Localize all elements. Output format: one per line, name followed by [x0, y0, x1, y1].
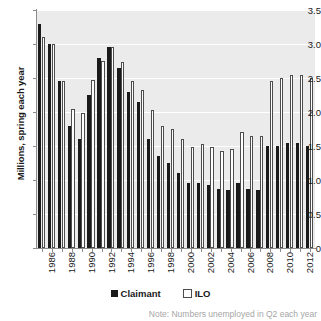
y-tick-mark: [33, 10, 36, 11]
bar-group: [266, 10, 273, 248]
x-tick-mark: [191, 248, 192, 252]
x-tick-label: 1996: [145, 252, 156, 273]
bar-claimant: [117, 68, 120, 248]
x-tick-mark: [221, 248, 222, 252]
bar-claimant: [217, 189, 220, 248]
legend-label-ilo: ILO: [195, 288, 211, 299]
x-axis-line: [36, 248, 316, 249]
bar-group: [167, 10, 174, 248]
bar-ilo: [161, 126, 164, 248]
bar-claimant: [177, 173, 180, 248]
bar-ilo: [280, 78, 283, 248]
x-tick-mark: [250, 248, 251, 252]
x-tick-mark: [141, 248, 142, 252]
bar-group: [197, 10, 204, 248]
bar-claimant: [246, 189, 249, 248]
bar-claimant: [207, 185, 210, 248]
bar-ilo: [101, 61, 104, 248]
x-tick-label: 1992: [106, 252, 117, 273]
bar-claimant: [97, 58, 100, 248]
y-tick-mark: [33, 248, 36, 249]
bar-ilo: [220, 151, 223, 248]
x-tick-mark: [102, 248, 103, 252]
bar-group: [38, 10, 45, 248]
x-tick-mark: [62, 248, 63, 252]
y-tick-label: 2.0: [287, 107, 321, 118]
bar-ilo: [250, 136, 253, 248]
bar-ilo: [52, 44, 55, 248]
bar-group: [48, 10, 55, 248]
bar-group: [187, 10, 194, 248]
x-tick-label: 1994: [125, 252, 136, 273]
claimant-swatch-icon: [111, 290, 118, 297]
bar-claimant: [38, 24, 41, 248]
x-tick-mark: [131, 248, 132, 252]
y-tick-label: 3.0: [287, 39, 321, 50]
x-tick-mark: [270, 248, 271, 252]
bar-group: [137, 10, 144, 248]
bar-claimant: [226, 190, 229, 248]
bar-group: [87, 10, 94, 248]
bar-ilo: [171, 129, 174, 248]
bar-ilo: [310, 78, 313, 248]
bar-group: [236, 10, 243, 248]
bar-claimant: [256, 190, 259, 248]
bar-ilo: [62, 81, 65, 248]
bar-group: [127, 10, 134, 248]
bar-ilo: [210, 147, 213, 248]
bar-group: [58, 10, 65, 248]
y-tick-mark: [33, 78, 36, 79]
x-tick-mark: [82, 248, 83, 252]
bar-claimant: [68, 126, 71, 248]
bar-claimant: [266, 146, 269, 248]
bar-group: [276, 10, 283, 248]
x-tick-label: 2008: [264, 252, 275, 273]
x-tick-mark: [280, 248, 281, 252]
x-tick-mark: [42, 248, 43, 252]
x-tick-mark: [92, 248, 93, 252]
y-tick-mark: [33, 180, 36, 181]
bar-ilo: [191, 147, 194, 248]
bar-ilo: [131, 81, 134, 248]
bar-ilo: [201, 144, 204, 248]
x-tick-mark: [161, 248, 162, 252]
x-tick-label: 2006: [245, 252, 256, 273]
bar-claimant: [187, 183, 190, 248]
bar-ilo: [300, 75, 303, 248]
ilo-swatch-icon: [183, 289, 192, 298]
y-tick-label: 1.0: [287, 175, 321, 186]
bar-claimant: [296, 143, 299, 248]
x-tick-mark: [310, 248, 311, 252]
bar-claimant: [236, 183, 239, 248]
bar-ilo: [181, 139, 184, 248]
bar-chart: Millions, spring each year 00.51.01.52.0…: [0, 0, 321, 321]
bar-claimant: [157, 156, 160, 248]
x-tick-mark: [181, 248, 182, 252]
bar-ilo: [42, 37, 45, 248]
bar-ilo: [91, 80, 94, 248]
bar-group: [147, 10, 154, 248]
bar-ilo: [111, 47, 114, 248]
x-tick-label: 2002: [205, 252, 216, 273]
bar-claimant: [147, 139, 150, 248]
x-tick-mark: [241, 248, 242, 252]
legend-item-ilo: ILO: [183, 288, 211, 299]
bar-group: [97, 10, 104, 248]
legend: Claimant ILO: [0, 288, 321, 299]
legend-item-claimant: Claimant: [111, 288, 161, 299]
x-tick-label: 2012: [304, 252, 315, 273]
bar-group: [117, 10, 124, 248]
y-tick-mark: [33, 214, 36, 215]
bar-claimant: [107, 47, 110, 248]
x-tick-mark: [300, 248, 301, 252]
bar-ilo: [290, 75, 293, 248]
y-axis-title: Millions, spring each year: [15, 8, 26, 240]
bar-ilo: [121, 62, 124, 248]
bar-claimant: [48, 44, 51, 248]
x-tick-label: 1986: [46, 252, 57, 273]
bar-group: [78, 10, 85, 248]
y-tick-mark: [33, 44, 36, 45]
bar-claimant: [167, 163, 170, 248]
y-tick-mark: [33, 112, 36, 113]
x-tick-mark: [121, 248, 122, 252]
